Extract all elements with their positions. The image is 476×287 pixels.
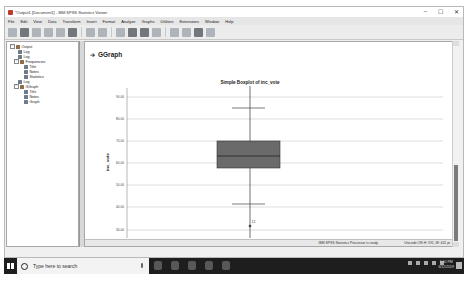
book-icon — [20, 60, 24, 64]
export-icon[interactable] — [56, 28, 65, 37]
menu-bar: File Edit View Data Transform Insert For… — [5, 17, 463, 25]
outline-label: Log — [24, 55, 30, 59]
notes-icon — [24, 70, 28, 74]
collapse-icon[interactable]: − — [14, 84, 19, 89]
svg-text:60.00: 60.00 — [116, 161, 124, 165]
print-preview-icon[interactable] — [44, 28, 53, 37]
spss-taskbar-icon[interactable] — [222, 261, 230, 270]
menu-file[interactable]: File — [8, 19, 14, 24]
output-content-pane: ➔ GGraph Simple Boxplot of inc_vote 90.0… — [84, 41, 457, 247]
save-icon[interactable] — [20, 28, 29, 37]
microphone-icon[interactable] — [141, 263, 143, 268]
menu-edit[interactable]: Edit — [20, 19, 27, 24]
svg-text:70.00: 70.00 — [116, 139, 124, 143]
menu-data[interactable]: Data — [48, 19, 56, 24]
outlier-label: 12 — [252, 220, 256, 224]
menu-utilities[interactable]: Utilities — [161, 19, 174, 24]
toolbar-separator — [111, 27, 112, 37]
open-icon[interactable] — [8, 28, 17, 37]
gridlines — [127, 97, 443, 230]
taskbar-search-box[interactable]: Type here to search — [17, 258, 149, 274]
start-button[interactable] — [4, 258, 17, 274]
collapse-icon[interactable]: − — [10, 44, 15, 49]
notes-icon — [24, 95, 28, 99]
svg-text:50.00: 50.00 — [116, 183, 124, 187]
task-view-icon[interactable] — [154, 261, 162, 270]
table-icon — [24, 75, 28, 79]
cortana-icon — [21, 263, 28, 270]
svg-text:90.00: 90.00 — [116, 95, 124, 99]
boxplot-chart[interactable]: Simple Boxplot of inc_vote 90.00 80.00 7… — [85, 42, 457, 247]
close-button[interactable]: ✕ — [454, 8, 459, 15]
outline-label: Title — [30, 65, 37, 69]
scroll-thumb[interactable] — [454, 165, 458, 241]
unicode-dims-status: Unicode:ON H: 591, W: 441 pt — [404, 241, 450, 245]
scroll-up-arrow[interactable] — [453, 41, 459, 46]
volume-icon[interactable] — [432, 261, 436, 265]
output-book-icon — [16, 45, 20, 49]
print-icon[interactable] — [32, 28, 41, 37]
outline-label: GGraph — [26, 85, 39, 89]
outline-label: Title — [30, 90, 37, 94]
file-explorer-icon[interactable] — [188, 261, 196, 270]
undo-icon[interactable] — [86, 28, 95, 37]
spss-app-icon — [8, 10, 13, 15]
windows-logo-icon — [7, 263, 14, 270]
designate-window-icon[interactable] — [194, 28, 203, 37]
chart-title: Simple Boxplot of inc_vote — [221, 80, 280, 85]
status-bar: IBM SPSS Statistics Processor is ready U… — [85, 239, 456, 246]
title-icon — [24, 90, 28, 94]
taskbar-clock[interactable]: 1:40 PM 6/12/2019 — [438, 260, 454, 270]
iqr-box — [217, 141, 280, 168]
outline-label: Notes — [30, 95, 39, 99]
goto-case-icon[interactable] — [128, 28, 137, 37]
recall-dialog-icon[interactable] — [68, 28, 77, 37]
menu-insert[interactable]: Insert — [87, 19, 97, 24]
log-icon — [18, 55, 22, 59]
outline-label: Frequencies — [26, 60, 46, 64]
scroll-down-arrow[interactable] — [453, 242, 459, 247]
menu-transform[interactable]: Transform — [62, 19, 80, 24]
insert-output-icon[interactable] — [206, 28, 215, 37]
chrome-icon[interactable] — [205, 261, 213, 270]
svg-text:80.00: 80.00 — [116, 117, 124, 121]
collapse-icon[interactable]: − — [14, 59, 19, 64]
redo-icon[interactable] — [98, 28, 107, 37]
goto-variable-icon[interactable] — [140, 28, 149, 37]
window-title: *Output1 [Document1] - IBM SPSS Statisti… — [15, 10, 107, 15]
outline-label: Statistics — [30, 75, 44, 79]
toolbar-separator — [81, 27, 82, 37]
processor-status: IBM SPSS Statistics Processor is ready — [318, 241, 378, 245]
menu-format[interactable]: Format — [103, 19, 116, 24]
menu-analyze[interactable]: Analyze — [121, 19, 135, 24]
title-bar: *Output1 [Document1] - IBM SPSS Statisti… — [5, 7, 463, 17]
menu-graphs[interactable]: Graphs — [141, 19, 154, 24]
outline-node-graph[interactable]: Graph — [10, 99, 78, 104]
action-center-icon[interactable] — [456, 262, 462, 269]
menu-window[interactable]: Window — [205, 19, 219, 24]
outline-label: Log — [24, 80, 30, 84]
people-icon[interactable] — [408, 261, 412, 265]
spss-viewer-window: *Output1 [Document1] - IBM SPSS Statisti… — [4, 6, 464, 258]
vertical-scrollbar[interactable] — [452, 41, 459, 247]
show-all-icon[interactable] — [170, 28, 179, 37]
output-outline-pane: −Output Log Log −Frequencies Title Notes… — [6, 41, 79, 247]
maximize-button[interactable]: ☐ — [438, 8, 443, 15]
variables-icon[interactable] — [152, 28, 161, 37]
outlier-point — [249, 225, 252, 228]
graph-icon — [24, 100, 28, 104]
minimize-button[interactable]: – — [424, 8, 427, 15]
edge-browser-icon[interactable] — [171, 261, 179, 270]
y-tick-labels: 90.00 80.00 70.00 60.00 50.00 40.00 30.0… — [116, 95, 124, 232]
windows-taskbar: Type here to search 1:40 PM 6/12/2019 — [4, 258, 464, 274]
toolbar-separator — [165, 27, 166, 37]
outline-label: Notes — [30, 70, 39, 74]
network-icon[interactable] — [424, 261, 428, 265]
goto-data-icon[interactable] — [116, 28, 125, 37]
show-hidden-icons-chevron[interactable] — [416, 261, 420, 265]
menu-view[interactable]: View — [33, 19, 42, 24]
menu-extensions[interactable]: Extensions — [179, 19, 199, 24]
hide-icon[interactable] — [182, 28, 191, 37]
clock-date: 6/12/2019 — [438, 265, 454, 270]
menu-help[interactable]: Help — [225, 19, 233, 24]
